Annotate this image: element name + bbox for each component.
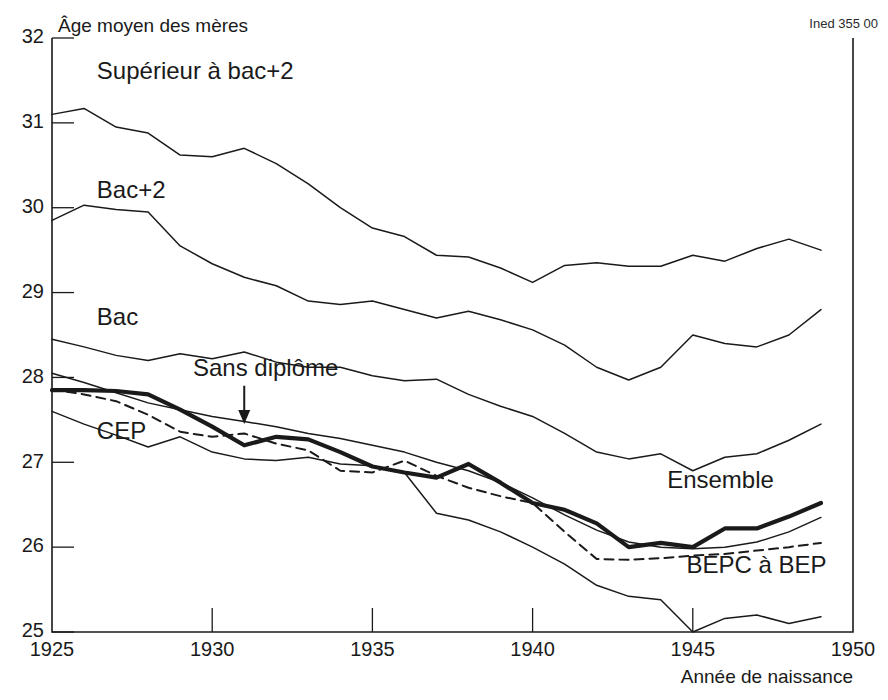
series-line-3 [52,373,821,549]
series-line-0 [52,108,821,282]
series-line-1 [52,205,821,380]
y-tick-label: 26 [22,534,44,556]
source-note: Ined 355 00 [809,16,878,31]
y-tick-label: 28 [22,365,44,387]
axis-frame [52,38,853,632]
y-axis-title: Âge moyen des mères [58,15,248,36]
series-label-3: Sans diplôme [193,354,338,381]
y-tick-label: 30 [22,195,44,217]
series-label-1: Bac+2 [97,176,166,203]
line-chart: 2526272829303132192519301935194019451950… [0,0,888,700]
chart-figure: 2526272829303132192519301935194019451950… [0,0,888,700]
y-tick-label: 27 [22,450,44,472]
series-label-4: Ensemble [667,466,774,493]
annotations [238,386,250,424]
x-tick-label: 1930 [190,638,235,660]
series-label-5: BEPC à BEP [686,551,826,578]
y-tick-label: 31 [22,110,44,132]
x-tick-label: 1945 [671,638,716,660]
series-label-0: Supérieur à bac+2 [97,57,294,84]
series-label-6: CEP [97,417,146,444]
x-axis-title: Année de naissance [681,666,853,687]
series-label-2: Bac [97,303,138,330]
y-tick-label: 32 [22,25,44,47]
x-tick-label: 1935 [350,638,395,660]
series-labels: Supérieur à bac+2Bac+2BacSans diplômeEns… [97,57,827,578]
x-tick-label: 1950 [831,638,876,660]
series-line-6 [52,411,821,632]
y-tick-label: 29 [22,280,44,302]
x-tick-label: 1940 [510,638,555,660]
x-tick-label: 1925 [30,638,75,660]
